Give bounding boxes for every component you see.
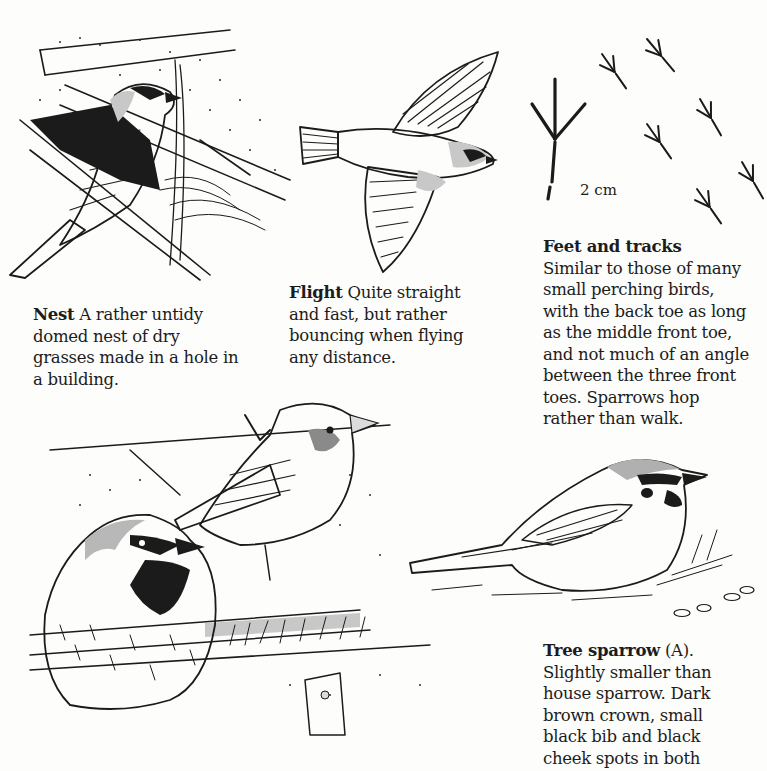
scale-label: 2 cm (580, 181, 617, 199)
nest-caption: Nest A rather untidy domed nest of dry g… (33, 304, 273, 390)
feet-caption-title: Feet and tracks (543, 237, 681, 256)
tree-sparrow-caption-title: Tree sparrow (543, 641, 660, 660)
tree-sparrow-caption: Tree sparrow (A). Slightly smaller than … (543, 640, 767, 769)
tree-sparrow-illustration (402, 445, 767, 620)
feet-caption: Feet and tracks Similar to those of many… (543, 236, 767, 430)
tracks-illustration (522, 24, 767, 224)
flight-illustration (298, 52, 503, 272)
flight-caption-title: Flight (289, 283, 343, 302)
nest-illustration (0, 30, 300, 280)
nest-caption-title: Nest (33, 305, 74, 324)
flight-caption: Flight Quite straight and fast, but rath… (289, 282, 499, 368)
